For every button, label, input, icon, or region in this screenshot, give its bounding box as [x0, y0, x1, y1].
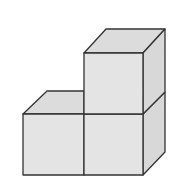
bottom-right-cube-front-face — [84, 114, 143, 175]
bottom-left-cube-front-face — [23, 114, 84, 175]
bottom-left-cube-top-face — [23, 91, 84, 114]
top-cube-front-face — [84, 53, 143, 114]
cube-stack-diagram — [0, 0, 176, 179]
bottom-left-cube — [23, 91, 84, 175]
top-cube — [84, 29, 165, 114]
